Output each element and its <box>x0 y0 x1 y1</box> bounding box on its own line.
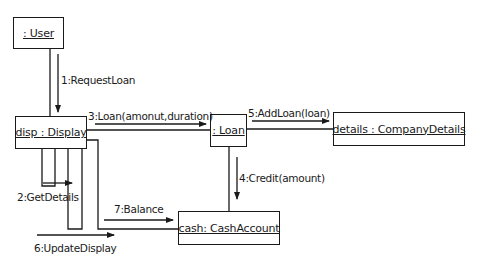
message-1-label: 1:RequestLoan <box>61 74 135 86</box>
message-2-label: 2:GetDetails <box>17 191 79 203</box>
object-user[interactable]: : User <box>13 17 64 49</box>
object-loan[interactable]: : Loan <box>210 114 247 147</box>
object-company-details[interactable]: details : CompanyDetails <box>333 112 465 146</box>
object-loan-label: : Loan <box>212 124 244 137</box>
self-link-updatedisplay <box>68 148 82 229</box>
object-display[interactable]: disp : Display <box>15 116 87 149</box>
message-4-label: 4:Credit(amount) <box>239 172 325 184</box>
self-link-getdetails <box>42 148 55 186</box>
object-cash-account[interactable]: cash: CashAccount <box>178 211 280 245</box>
object-company-details-label: details : CompanyDetails <box>333 123 466 136</box>
object-display-label: disp : Display <box>15 126 86 139</box>
message-6-label: 6:UpdateDisplay <box>34 242 116 254</box>
message-5-label: 5:AddLoan(loan) <box>248 107 330 119</box>
message-7-label: 7:Balance <box>114 203 163 215</box>
link-display-cashaccount <box>86 140 178 229</box>
message-3-label: 3:Loan(amonut,duration) <box>88 110 213 122</box>
collaboration-diagram: : User disp : Display : Loan details : C… <box>0 0 478 267</box>
object-user-label: : User <box>23 27 54 40</box>
object-cash-account-label: cash: CashAccount <box>179 222 280 235</box>
